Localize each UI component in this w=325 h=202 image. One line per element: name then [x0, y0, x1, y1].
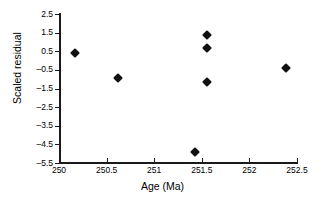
x-tick-label: 251.5: [182, 166, 222, 175]
y-tick-mark: [55, 33, 59, 34]
y-tick-mark: [55, 126, 59, 127]
y-tick-mark: [55, 144, 59, 145]
y-tick-mark: [55, 89, 59, 90]
x-tick-label: 251: [134, 166, 174, 175]
y-tick-label: –4.5: [25, 140, 53, 149]
data-point: [190, 147, 200, 157]
x-tick-label: 250.5: [87, 166, 127, 175]
x-tick-mark: [297, 158, 298, 162]
y-tick-mark: [55, 163, 59, 164]
y-tick-label: 2.5: [25, 10, 53, 19]
y-tick-label: 1.5: [25, 28, 53, 37]
data-point: [202, 44, 212, 54]
y-axis-title: Scaled residual: [11, 13, 23, 123]
y-tick-mark: [55, 107, 59, 108]
y-tick-mark: [55, 70, 59, 71]
x-tick-label: 252.5: [277, 166, 317, 175]
x-tick-mark: [154, 158, 155, 162]
x-tick-mark: [107, 158, 108, 162]
y-tick-label: –3.5: [25, 121, 53, 130]
y-tick-label: –2.5: [25, 103, 53, 112]
x-tick-mark: [59, 158, 60, 162]
x-axis-line: [59, 162, 298, 164]
data-point: [202, 77, 212, 87]
x-tick-mark: [249, 158, 250, 162]
y-tick-mark: [55, 14, 59, 15]
x-tick-label: 252: [229, 166, 269, 175]
y-tick-label: –1.5: [25, 84, 53, 93]
y-tick-mark: [55, 51, 59, 52]
x-tick-mark: [202, 158, 203, 162]
data-point: [70, 48, 80, 58]
data-point: [113, 73, 123, 83]
data-point: [202, 30, 212, 40]
y-axis-line: [59, 13, 61, 164]
x-tick-label: 250: [39, 166, 79, 175]
data-point: [281, 63, 291, 73]
x-axis-title: Age (Ma): [0, 180, 325, 192]
y-tick-label: 0.5: [25, 47, 53, 56]
y-tick-label: –0.5: [25, 65, 53, 74]
scatter-plot: 2.51.50.5–0.5–1.5–2.5–3.5–4.5–5.5 250250…: [0, 0, 325, 202]
